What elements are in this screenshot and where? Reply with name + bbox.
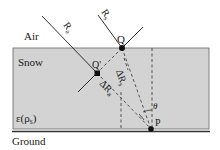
angle-theta-label: θ (153, 101, 158, 111)
point-qprime-label: Q' (92, 59, 101, 70)
permittivity-label: ε(ρs) (16, 112, 37, 126)
point-q-label: Q (117, 33, 125, 45)
ray-s-label: Rs (98, 7, 114, 22)
snow-label: Snow (18, 56, 43, 68)
ray-a-label: Ra (60, 20, 77, 36)
point-p-label: P (155, 117, 161, 128)
point-q-marker (119, 45, 125, 51)
snow-radar-geometry-diagram: Air Snow Ground ε(ρs) Ra Rs Q Q' P ΔRs Δ… (0, 0, 220, 150)
ray-s-reflection (122, 27, 143, 48)
svg-text:Rs: Rs (98, 7, 114, 22)
ground-label: Ground (12, 135, 46, 147)
point-qprime-marker (95, 71, 101, 77)
svg-text:Ra: Ra (60, 20, 77, 36)
air-label: Air (24, 30, 39, 42)
point-p-marker (148, 126, 154, 132)
